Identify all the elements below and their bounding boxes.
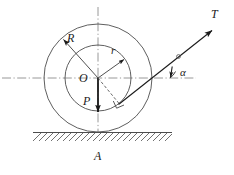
label-contact-point: A — [93, 149, 102, 163]
center-axes — [2, 7, 196, 133]
angle-arrow — [171, 67, 173, 78]
angle-alpha-marker — [170, 67, 176, 79]
inner-radius-arrow — [98, 60, 124, 79]
tension-line — [119, 31, 213, 105]
label-weight: P — [82, 94, 91, 108]
figure-canvas: R r O P T α A — [0, 0, 234, 175]
label-tension: T — [211, 7, 219, 21]
physics-figure: R r O P T α A — [0, 0, 234, 175]
tension-force-vector — [119, 31, 213, 105]
moment-arm-dashed-line — [98, 78, 120, 104]
label-inner-radius: r — [111, 44, 116, 56]
label-outer-radius: R — [66, 31, 75, 45]
label-angle: α — [180, 66, 186, 78]
ground-hatching — [33, 133, 172, 142]
hatch-strokes — [33, 133, 172, 142]
label-center: O — [79, 71, 88, 85]
